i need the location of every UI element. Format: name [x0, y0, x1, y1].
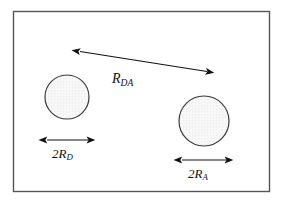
diagram-canvas: [0, 0, 282, 205]
acceptor-diameter-label: 2RA: [188, 167, 208, 182]
separation-label-subscript: DA: [121, 78, 134, 88]
acceptor-diameter-label-subscript: A: [202, 172, 208, 182]
donor-circle: [45, 75, 89, 119]
figure-container: RDA 2RD 2RA: [0, 0, 282, 205]
separation-label: RDA: [112, 72, 134, 88]
acceptor-circle: [179, 96, 229, 146]
donor-diameter-label: 2RD: [52, 147, 73, 162]
donor-diameter-label-subscript: D: [66, 152, 73, 162]
separation-label-symbol: R: [112, 71, 121, 86]
